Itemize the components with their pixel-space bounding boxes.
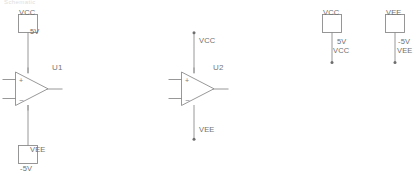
u1-vcc-net-label[interactable]: VCC [19,9,35,17]
u1-minus-sign: – [20,96,24,103]
vcc-net-source-value[interactable]: 5V [337,38,346,46]
u2-vcc-terminal-dot [193,31,196,34]
u1-plus-sign: + [19,77,23,84]
vee-net-source-label[interactable]: VEE [386,9,401,17]
u2-reference-label[interactable]: U2 [213,64,224,72]
u2-minus-sign: – [186,96,190,103]
u1-vcc-value-label[interactable]: 5V [30,28,39,36]
vcc-net-source-label[interactable]: VCC [323,9,339,17]
u2-vcc-net-label[interactable]: VCC [199,37,215,45]
opamp-polarity-glyphs: + – + – [19,77,190,103]
u2-plus-sign: + [185,77,189,84]
u2-vee-net-label[interactable]: VEE [199,126,214,134]
vcc-net-terminal-dot [331,61,334,64]
vcc-net-source-body [323,15,342,33]
vcc-net-source-netname[interactable]: VCC [333,47,349,55]
u2-vee-terminal-dot [193,138,196,141]
schematic-canvas[interactable]: Schematic [0,0,416,181]
vee-net-terminal-dot [394,61,397,64]
vee-net-source-netname[interactable]: VEE [397,47,412,55]
schematic-drawing: + – + – [0,0,416,181]
u1-reference-label[interactable]: U1 [52,64,63,72]
vee-net-source-body [386,15,405,33]
vee-net-source-value[interactable]: -5V [398,38,410,46]
u1-vee-net-label[interactable]: VEE [30,146,45,154]
u1-vee-value-label[interactable]: -5V [20,165,32,173]
